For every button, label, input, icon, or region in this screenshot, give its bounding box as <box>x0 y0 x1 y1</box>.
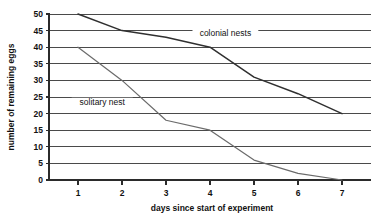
y-tick-label-40: 40 <box>34 42 44 52</box>
x-tick-label-5: 5 <box>252 188 257 198</box>
chart-canvas: 05101520253035404550 1234567 colonial ne… <box>0 0 379 224</box>
x-tick-label-7: 7 <box>340 188 345 198</box>
series-label-solitary-nest: solitary nest <box>80 97 126 107</box>
y-tick-label-50: 50 <box>34 9 44 19</box>
series-label-colonial-nests: colonial nests <box>200 28 252 38</box>
x-axis-title: days since start of experiment <box>151 203 274 213</box>
series-annotations: colonial nestssolitary nest <box>72 28 259 108</box>
x-tick-label-6: 6 <box>296 188 301 198</box>
axis-titles: days since start of experimentnumber of … <box>6 43 273 213</box>
x-tick-label-3: 3 <box>164 188 169 198</box>
y-tick-label-5: 5 <box>38 158 43 168</box>
y-axis-title: number of remaining eggs <box>6 43 16 150</box>
y-tick-label-45: 45 <box>34 26 44 36</box>
x-tick-label-2: 2 <box>120 188 125 198</box>
y-tick-label-15: 15 <box>34 125 44 135</box>
y-tick-label-30: 30 <box>34 75 44 85</box>
x-tick-label-4: 4 <box>208 188 213 198</box>
x-tick-label-1: 1 <box>76 188 81 198</box>
y-tick-label-35: 35 <box>34 59 44 69</box>
x-axis-tick-labels: 1234567 <box>76 188 345 198</box>
egg-remaining-line-chart: 05101520253035404550 1234567 colonial ne… <box>0 0 379 224</box>
y-tick-label-25: 25 <box>34 92 44 102</box>
y-tick-label-0: 0 <box>38 175 43 185</box>
y-tick-label-20: 20 <box>34 109 44 119</box>
y-axis-tick-labels: 05101520253035404550 <box>34 9 44 185</box>
y-tick-label-10: 10 <box>34 142 44 152</box>
